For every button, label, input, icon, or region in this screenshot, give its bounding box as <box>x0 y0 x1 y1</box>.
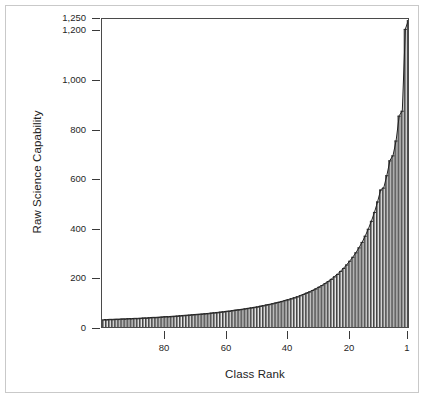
y-tick-label: 600 <box>70 173 86 184</box>
y-tick-label: 200 <box>70 272 86 283</box>
y-tick-mark <box>92 179 100 180</box>
x-tick-mark <box>226 331 227 339</box>
x-tick-mark <box>164 331 165 339</box>
x-tick-label: 1 <box>387 342 424 353</box>
x-tick-mark <box>349 331 350 339</box>
y-tick-label: 1,000 <box>62 74 86 85</box>
y-tick-label: 1,200 <box>62 24 86 35</box>
x-tick-label: 60 <box>206 342 246 353</box>
y-tick-label: 800 <box>70 124 86 135</box>
bar-series-raw-science-capability <box>102 19 409 328</box>
x-tick-mark <box>287 331 288 339</box>
x-tick-mark <box>407 331 408 339</box>
x-tick-label: 40 <box>267 342 307 353</box>
y-axis-title: Raw Science Capability <box>31 62 43 282</box>
y-tick-mark <box>92 30 100 31</box>
plot-area <box>101 18 409 328</box>
y-tick-label: 400 <box>70 223 86 234</box>
y-tick-mark <box>92 229 100 230</box>
y-tick-mark <box>92 278 100 279</box>
y-tick-label: 0 <box>81 322 86 333</box>
y-tick-mark <box>92 328 100 329</box>
x-axis-title: Class Rank <box>100 368 410 380</box>
y-tick-mark <box>92 80 100 81</box>
x-tick-label: 20 <box>329 342 369 353</box>
chart-figure: Raw Science Capability Class Rank 020040… <box>0 0 424 398</box>
y-tick-mark <box>92 18 100 19</box>
y-tick-mark <box>92 130 100 131</box>
y-tick-label: 1,250 <box>62 12 86 23</box>
x-tick-label: 80 <box>144 342 184 353</box>
